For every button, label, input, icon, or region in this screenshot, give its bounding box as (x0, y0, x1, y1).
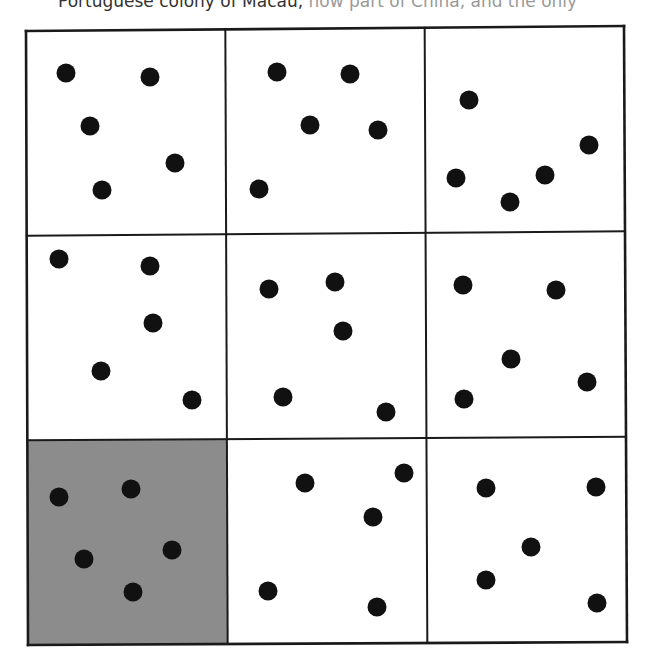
dot (250, 180, 269, 199)
grid-cell (26, 29, 226, 235)
dot (377, 403, 396, 422)
dot (578, 373, 597, 392)
dot (141, 68, 160, 87)
dot (75, 550, 94, 569)
dot (141, 257, 160, 276)
dot (455, 390, 474, 409)
dot (536, 166, 555, 185)
grid-cell (426, 231, 626, 438)
dot (124, 583, 143, 602)
dot (460, 91, 479, 110)
dot (183, 391, 202, 410)
dot (395, 464, 414, 483)
dot (341, 65, 360, 84)
dot (588, 594, 607, 613)
dot (296, 474, 315, 493)
dot (268, 63, 287, 82)
dot (260, 280, 279, 299)
dot (334, 322, 353, 341)
dot (369, 121, 388, 140)
dot (326, 273, 345, 292)
dot (587, 478, 606, 497)
dot (50, 250, 69, 269)
dot (166, 154, 185, 173)
dot-grid-diagram (0, 0, 650, 670)
dot (447, 169, 466, 188)
grid-cell (225, 28, 425, 235)
dot (501, 193, 520, 212)
dot (547, 281, 566, 300)
dot (57, 64, 76, 83)
dot (301, 116, 320, 135)
dot (50, 488, 69, 507)
dot (144, 314, 163, 333)
dot (81, 117, 100, 136)
dot (259, 582, 278, 601)
dot (522, 538, 541, 557)
dot (502, 350, 521, 369)
dot (580, 136, 599, 155)
grid-cell (425, 26, 625, 233)
dot (477, 479, 496, 498)
dot (364, 508, 383, 527)
dot (163, 541, 182, 560)
dot (93, 181, 112, 200)
dot (454, 276, 473, 295)
dot (274, 388, 293, 407)
dot (368, 598, 387, 617)
dot (122, 480, 141, 499)
shaded-grid-cell (27, 439, 227, 645)
grid-cell (226, 233, 426, 439)
dot (92, 362, 111, 381)
dot (477, 571, 496, 590)
